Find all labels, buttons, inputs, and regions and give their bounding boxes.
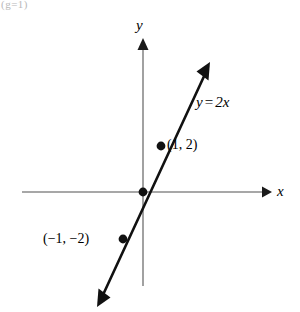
point-marker-origin	[139, 188, 148, 197]
point-label-neg1-neg2: (−1, −2)	[43, 232, 89, 246]
function-line-group	[97, 62, 210, 307]
axes-group	[22, 38, 272, 286]
x-axis-label: x	[277, 184, 284, 199]
function-line-y-equals-2x	[102, 72, 206, 297]
point-label-1-2: (1, 2)	[167, 138, 197, 152]
graph-figure: (g=1) y x y=2x (1, 2) (−1, −2)	[0, 0, 300, 312]
point-marker-neg1-neg2	[119, 235, 128, 244]
equation-operator: =	[203, 94, 215, 110]
y-axis-arrowhead	[138, 38, 149, 50]
page-artifact-text: (g=1)	[1, 0, 28, 10]
equation-left-side: y	[196, 94, 203, 110]
point-marker-1-2	[157, 142, 166, 151]
coordinate-plane-graphic	[0, 0, 300, 312]
equation-right-side: 2x	[215, 94, 229, 110]
x-axis-arrowhead	[262, 187, 272, 198]
line-equation-label: y=2x	[196, 95, 229, 110]
y-axis-label: y	[136, 18, 143, 33]
